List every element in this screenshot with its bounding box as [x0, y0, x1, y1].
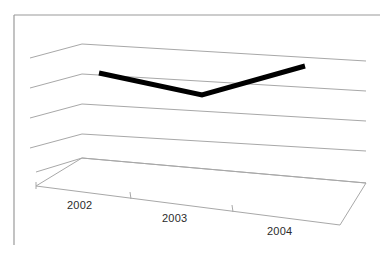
series-group: [99, 66, 305, 95]
gridline-5: [30, 44, 366, 61]
chart-canvas: [0, 0, 380, 262]
chart-container: 2002 2003 2004: [0, 0, 380, 262]
gridline-1: [36, 158, 366, 183]
gridlines-group: [30, 44, 366, 183]
axis-tick-label-2003: 2003: [162, 212, 187, 224]
floor-plane: [36, 158, 366, 225]
series-line-1[interactable]: [99, 66, 305, 95]
gridline-3: [30, 104, 366, 121]
axis-tick-label-2004: 2004: [267, 225, 292, 237]
axis-tick-label-2002: 2002: [67, 199, 92, 211]
gridline-2: [30, 134, 366, 151]
floor-polygon: [36, 158, 366, 225]
gridline-4: [30, 74, 366, 91]
